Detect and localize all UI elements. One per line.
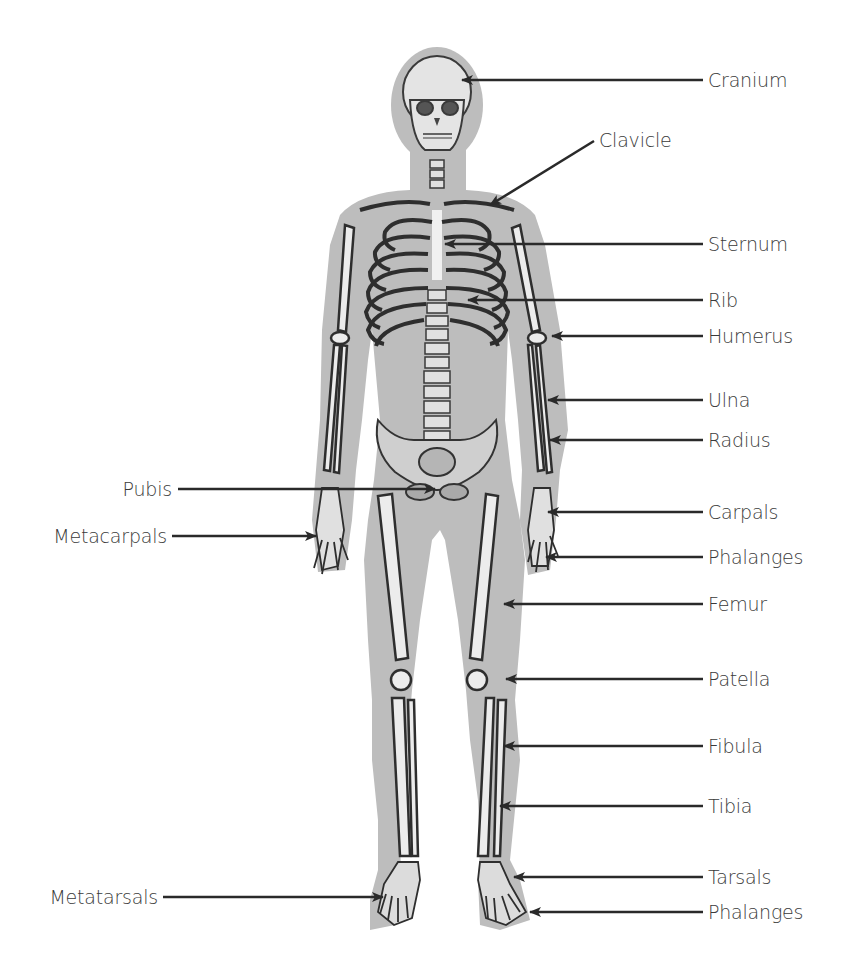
label-metatarsals: Metatarsals bbox=[49, 886, 158, 908]
legs bbox=[378, 494, 506, 856]
label-cranium: Cranium bbox=[708, 69, 787, 91]
label-rib: Rib bbox=[708, 289, 738, 311]
skeleton-diagram: Cranium Clavicle Sternum Rib Humerus Uln… bbox=[0, 0, 853, 974]
label-clavicle: Clavicle bbox=[599, 129, 672, 151]
label-ulna: Ulna bbox=[708, 389, 750, 411]
label-metacarpals: Metacarpals bbox=[53, 525, 167, 547]
label-fibula: Fibula bbox=[708, 735, 763, 757]
label-tarsals: Tarsals bbox=[708, 866, 771, 888]
label-femur: Femur bbox=[708, 593, 767, 615]
label-tibia: Tibia bbox=[708, 795, 752, 817]
label-carpals: Carpals bbox=[708, 501, 778, 523]
label-patella: Patella bbox=[708, 668, 770, 690]
label-phalanges-foot: Phalanges bbox=[708, 901, 803, 923]
label-pubis: Pubis bbox=[123, 478, 172, 500]
label-sternum: Sternum bbox=[708, 233, 788, 255]
label-radius: Radius bbox=[708, 429, 771, 451]
label-humerus: Humerus bbox=[708, 325, 793, 347]
label-phalanges-hand: Phalanges bbox=[708, 546, 803, 568]
feet bbox=[378, 862, 526, 925]
